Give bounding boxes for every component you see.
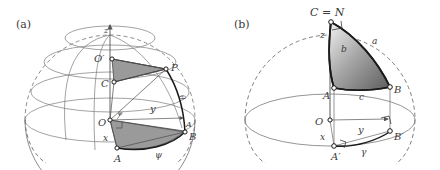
right-angle-at-Bprime-b [381, 116, 391, 124]
segment-OC-a [110, 82, 114, 120]
panel-a-tag: (a) [16, 18, 31, 31]
vertex-O-b [328, 118, 332, 122]
vertex-B-prime-b [388, 129, 393, 134]
label-B-b: B [393, 84, 401, 95]
label-gamma-b: γ [361, 147, 367, 157]
sphere-lower-left-dash-b [245, 120, 265, 163]
sphere-bottom-arc-a [25, 120, 195, 170]
label-psi-a: ψ [155, 150, 163, 160]
label-A-prime-b: A′ [330, 151, 341, 162]
label-O-a: O [98, 117, 106, 128]
label-B-a: B [188, 131, 196, 142]
vertex-B-a [183, 130, 187, 134]
upper-shaded-triangle-a [112, 59, 166, 82]
label-A-b: A [322, 90, 330, 101]
vertex-O-prime-a [110, 57, 114, 61]
vertex-B-b [388, 85, 393, 90]
vertex-A-a [115, 146, 119, 150]
segment-O-Aprime-b [330, 120, 334, 146]
spherical-triangle-b [329, 22, 390, 90]
y-axis-b [330, 119, 388, 120]
label-P-a: P [170, 62, 178, 73]
label-z-axis-b: z [319, 30, 325, 40]
label-A-a: A [113, 153, 121, 164]
y-axis-a [110, 118, 183, 120]
panel-a: (a) [16, 18, 196, 170]
label-A-right-a: A [185, 120, 192, 129]
label-O-b: O [315, 116, 323, 127]
label-C-equals-N-b: C = N [310, 6, 345, 19]
panel-b: (b) [234, 6, 415, 164]
label-y-axis-b: y [357, 124, 364, 135]
label-side-a-b: a [372, 36, 377, 46]
label-side-c-b: c [359, 92, 364, 102]
vertex-P-a [164, 67, 168, 71]
label-x-axis-b: x [320, 132, 325, 142]
vertex-C-N-b [329, 20, 334, 25]
vertex-A-prime-b [332, 144, 337, 149]
label-phi-a: φ [118, 109, 123, 117]
vertex-C-a [112, 80, 116, 84]
label-side-b-b: b [341, 44, 347, 54]
label-O-prime-a: O′ [94, 53, 105, 64]
vertex-A-b [332, 86, 337, 91]
figure-canvas: (a) [0, 0, 440, 170]
label-C-a: C [101, 78, 109, 89]
label-B-prime-b: B′ [393, 131, 404, 142]
panel-b-tag: (b) [234, 18, 250, 31]
vertex-O-a [108, 118, 112, 122]
spherical-geometry-figure: (a) [0, 0, 440, 170]
label-z-axis-a: z [103, 26, 109, 35]
label-y-axis-a: y [149, 103, 156, 114]
label-x-axis-a: x [103, 133, 108, 143]
